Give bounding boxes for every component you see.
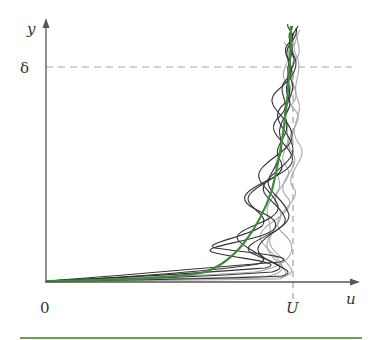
boundary-layer-diagram: y δ 0 U u <box>0 0 384 340</box>
delta-label: δ <box>20 59 29 77</box>
instantaneous-profiles-dark <box>46 24 298 281</box>
x-axis-label: u <box>346 290 356 308</box>
freestream-label: U <box>286 299 300 317</box>
x-axis-arrow-icon <box>350 279 360 286</box>
y-axis-label: y <box>26 20 36 38</box>
y-axis-arrow-icon <box>43 18 50 28</box>
instantaneous-profiles-light <box>46 30 302 282</box>
origin-label: 0 <box>40 299 50 317</box>
